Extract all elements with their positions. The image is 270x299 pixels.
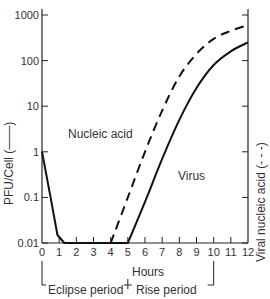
y-tick-label: 1000 bbox=[15, 9, 39, 21]
x-tick-label: 6 bbox=[142, 246, 148, 258]
x-tick-label: 3 bbox=[90, 246, 96, 258]
y-axis-title-right: Viral nucleic acid (- - -) bbox=[254, 142, 268, 262]
axes: 0.010.111010010000123456789101112 bbox=[15, 9, 255, 289]
nucleic-acid-label: Nucleic acid bbox=[68, 127, 133, 141]
x-tick-label: 8 bbox=[176, 246, 182, 258]
eclipse-bracket-start bbox=[42, 261, 46, 285]
y-tick-label: 100 bbox=[21, 55, 39, 67]
virus-label: Virus bbox=[178, 169, 205, 183]
period-divider bbox=[124, 279, 132, 289]
x-tick-label: 2 bbox=[73, 246, 79, 258]
y-tick-label: 1 bbox=[33, 146, 39, 158]
x-tick-label: 10 bbox=[208, 246, 220, 258]
chart-canvas: 0.010.111010010000123456789101112 Nuclei… bbox=[0, 0, 270, 299]
x-tick-label: 7 bbox=[159, 246, 165, 258]
y-axis-title-left: PFU/Cell (——) bbox=[2, 122, 16, 205]
eclipse-period-label: Eclipse period bbox=[48, 283, 123, 297]
rise-bracket-end bbox=[208, 261, 214, 285]
virus-line bbox=[42, 42, 248, 243]
y-tick-label: 0.1 bbox=[24, 191, 39, 203]
x-tick-label: 0 bbox=[39, 246, 45, 258]
x-axis-title: Hours bbox=[132, 265, 164, 279]
y-tick-label: 0.01 bbox=[18, 237, 39, 249]
x-tick-label: 9 bbox=[193, 246, 199, 258]
x-tick-label: 12 bbox=[242, 246, 254, 258]
x-tick-label: 4 bbox=[108, 246, 114, 258]
y-tick-label: 10 bbox=[27, 100, 39, 112]
x-tick-label: 1 bbox=[56, 246, 62, 258]
rise-period-label: Rise period bbox=[136, 283, 197, 297]
x-tick-label: 11 bbox=[225, 246, 236, 258]
x-tick-label: 5 bbox=[125, 246, 131, 258]
